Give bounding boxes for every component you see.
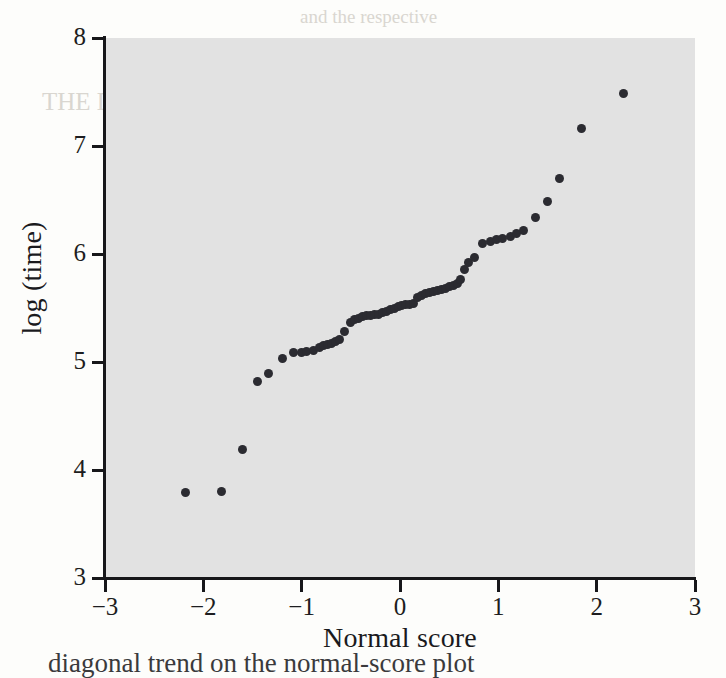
y-axis-tick-label: 6 [46,240,86,265]
x-axis-tick [104,580,107,592]
plot-area [105,38,695,578]
data-point [470,253,479,262]
x-axis-tick-label: 2 [572,594,622,619]
data-point [577,124,586,133]
y-axis-tick-label: 7 [46,132,86,157]
data-point [238,445,247,454]
y-axis-tick-label: 5 [46,348,86,373]
x-axis-tick-label: 1 [473,594,523,619]
data-point-layer [105,38,695,578]
y-axis-tick [92,577,104,580]
data-point [543,197,552,206]
x-axis-tick-label: −3 [80,594,130,619]
x-axis-tick-label: −2 [178,594,228,619]
y-axis-tick [92,145,104,148]
y-axis-tick-label: 3 [46,564,86,589]
data-point [217,487,226,496]
data-point [519,226,528,235]
y-axis-tick [92,37,104,40]
figure-caption: diagonal trend on the normal-score plot [48,648,475,678]
x-axis-tick [497,580,500,592]
x-axis-tick [399,580,402,592]
y-axis-tick [92,253,104,256]
data-point [619,89,628,98]
data-point [340,327,349,336]
data-point [278,354,287,363]
figure-page: and the respectiveTHE DATAbe given byin … [0,0,726,678]
y-axis-label: log (time) [16,168,48,388]
y-axis-tick [92,361,104,364]
x-axis-tick-label: 3 [670,594,720,619]
x-axis-tick-label: 0 [375,594,425,619]
x-axis-tick [300,580,303,592]
y-axis-line [103,36,106,580]
y-axis-tick-label: 4 [46,456,86,481]
x-axis-tick [595,580,598,592]
x-axis-tick-label: −1 [277,594,327,619]
data-point [264,369,273,378]
data-point [456,275,465,284]
data-point [253,377,262,386]
x-axis-tick [202,580,205,592]
data-point [531,213,540,222]
y-axis-tick-label: 8 [46,24,86,49]
data-point [181,488,190,497]
y-axis-tick [92,469,104,472]
normal-score-scatter-figure: 345678 −3−2−10123 Normal score log (time… [0,0,726,678]
x-axis-tick [694,580,697,592]
data-point [335,335,344,344]
data-point [555,174,564,183]
